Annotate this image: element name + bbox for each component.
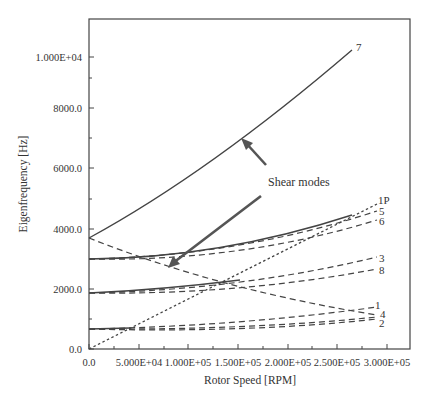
- x-tick-label: 1.500E+05: [215, 357, 261, 368]
- y-tick-label: 0.0: [69, 344, 82, 355]
- x-tick-label: 2.000E+05: [265, 357, 311, 368]
- y-axis-ticks: [89, 57, 94, 349]
- eigenfrequency-chart: 0.0 2000.0 4000.0 6000.0 8000.0 1.000E+0…: [0, 0, 428, 401]
- curve-label-7: 7: [356, 41, 362, 53]
- curve-label-6: 6: [379, 215, 385, 227]
- y-tick-label: 2000.0: [53, 284, 82, 295]
- curve-3-solid: [89, 280, 240, 293]
- y-tick-label: 6000.0: [53, 163, 82, 174]
- x-tick-label: 0.0: [82, 357, 95, 368]
- x-tick-label: 5.000E+04: [116, 357, 163, 368]
- curve-label-3: 3: [379, 252, 385, 264]
- x-tick-label: 1.000E+05: [165, 357, 211, 368]
- curve-7: [89, 50, 352, 238]
- curve-label-8: 8: [379, 264, 385, 276]
- curves: [89, 50, 377, 349]
- curve-3: [89, 257, 377, 293]
- curve-label-2: 2: [379, 317, 385, 329]
- shear-modes-annotation: Shear modes: [268, 175, 330, 189]
- y-tick-label: 1.000E+04: [36, 52, 83, 63]
- x-axis-ticks: [89, 344, 387, 349]
- plot-frame: [89, 19, 410, 349]
- y-axis-title: Eigenfrequency [Hz]: [17, 136, 30, 233]
- x-tick-label: 2.500E+05: [314, 357, 360, 368]
- x-axis-title: Rotor Speed [RPM]: [204, 374, 296, 387]
- y-tick-label: 4000.0: [53, 224, 82, 235]
- curve-6: [89, 220, 377, 259]
- x-tick-label: 3.000E+05: [364, 357, 410, 368]
- curve-1: [89, 307, 377, 329]
- y-tick-label: 8000.0: [53, 103, 82, 114]
- arrow-down-line: [173, 196, 261, 263]
